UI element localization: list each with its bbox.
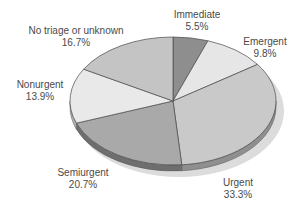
label-immediate: Immediate 5.5%: [174, 9, 221, 33]
label-no-triage-name: No triage or unknown: [28, 25, 123, 37]
label-immediate-name: Immediate: [174, 9, 221, 21]
label-no-triage: No triage or unknown 16.7%: [28, 25, 123, 49]
label-nonurgent-name: Nonurgent: [17, 79, 64, 91]
label-semiurgent-pct: 20.7%: [57, 179, 108, 191]
label-semiurgent-name: Semiurgent: [57, 167, 108, 179]
label-immediate-pct: 5.5%: [174, 21, 221, 33]
label-urgent-name: Urgent: [223, 177, 253, 189]
label-urgent: Urgent 33.3%: [223, 177, 253, 201]
label-emergent: Emergent 9.8%: [243, 36, 286, 60]
label-urgent-pct: 33.3%: [223, 189, 253, 201]
label-emergent-pct: 9.8%: [243, 48, 286, 60]
label-emergent-name: Emergent: [243, 36, 286, 48]
label-semiurgent: Semiurgent 20.7%: [57, 167, 108, 191]
label-no-triage-pct: 16.7%: [28, 37, 123, 49]
label-nonurgent: Nonurgent 13.9%: [17, 79, 64, 103]
label-nonurgent-pct: 13.9%: [17, 91, 64, 103]
